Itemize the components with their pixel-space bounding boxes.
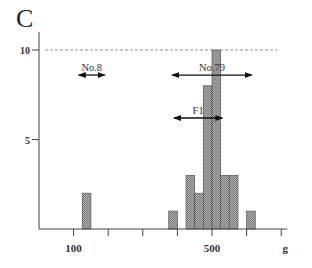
histogram-bar [212, 50, 221, 229]
histogram-bar [247, 211, 256, 229]
histogram-bar [82, 193, 91, 229]
histogram-bar [195, 193, 204, 229]
y-tick-label: 5 [25, 135, 30, 146]
histogram-chart: 510100500gNo.8No.79F1 [0, 0, 312, 268]
histogram-bar [221, 175, 230, 229]
range-label: No.8 [81, 62, 102, 73]
histogram-bar [203, 86, 212, 229]
histogram-bar [169, 211, 178, 229]
range-label: No.79 [199, 62, 225, 73]
histogram-bar [229, 175, 238, 229]
x-tick-label: 500 [204, 242, 221, 254]
x-axis-unit-label: g [282, 242, 288, 254]
histogram-bar [186, 175, 195, 229]
range-label: F1 [193, 105, 204, 116]
y-tick-label: 10 [20, 45, 30, 56]
x-tick-label: 100 [65, 242, 82, 254]
